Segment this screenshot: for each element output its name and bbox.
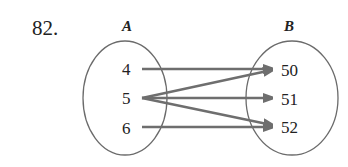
- problem-number: 82.: [32, 16, 58, 40]
- arrow-5-to-52: [142, 98, 272, 125]
- set-b-element-51: 51: [281, 90, 298, 109]
- arrow-diagram: 82. A B 4 5 6 50 51 52: [0, 0, 348, 167]
- set-a-label: A: [121, 18, 132, 34]
- set-a-element-6: 6: [122, 119, 131, 138]
- arrow-5-to-50: [142, 70, 272, 98]
- set-b-element-50: 50: [281, 61, 298, 80]
- set-b-label: B: [283, 18, 294, 34]
- set-b-element-52: 52: [281, 118, 298, 137]
- set-a-element-4: 4: [122, 60, 131, 79]
- set-a-element-5: 5: [122, 89, 131, 108]
